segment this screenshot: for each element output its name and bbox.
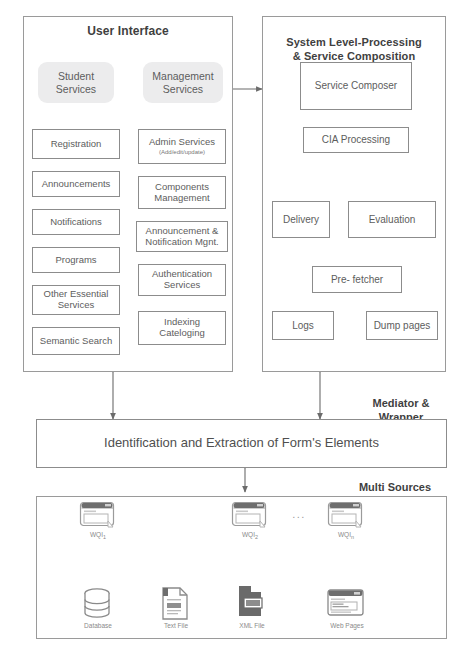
wqi-ellipsis: ...: [284, 508, 314, 520]
text-file-label: Text File: [148, 622, 204, 629]
window-icon-wqi-1: [79, 501, 117, 535]
database-label: Database: [69, 622, 127, 629]
box-cia-processing[interactable]: CIA Processing: [303, 127, 409, 153]
box-announcement-notification-mgnt[interactable]: Announcement & Notification Mgnt.: [136, 221, 228, 252]
box-components-management[interactable]: Components Management: [138, 176, 226, 209]
box-indexing-cateloging[interactable]: Indexing Cateloging: [138, 311, 226, 345]
window-icon-wqi-n: [327, 501, 365, 535]
service-group-management-label: Management Services: [152, 70, 213, 95]
box-dump-pages[interactable]: Dump pages: [366, 311, 438, 340]
database-icon: [79, 586, 117, 626]
box-admin-services[interactable]: Admin Services (Add/edit/update): [138, 129, 226, 164]
box-pre-fetcher[interactable]: Pre- fetcher: [312, 266, 402, 293]
box-delivery[interactable]: Delivery: [272, 201, 330, 238]
box-identification-extraction[interactable]: Identification and Extraction of Form's …: [36, 419, 447, 468]
box-semantic-search[interactable]: Semantic Search: [32, 327, 120, 355]
wqi-2-label: WQI2: [222, 531, 278, 540]
panel-user-interface-title: User Interface: [23, 24, 233, 39]
box-logs[interactable]: Logs: [272, 311, 334, 340]
box-announcements[interactable]: Announcements: [32, 171, 120, 197]
box-evaluation[interactable]: Evaluation: [348, 201, 436, 238]
box-notifications[interactable]: Notifications: [32, 209, 120, 235]
architecture-diagram: User Interface Student Services Manageme…: [0, 0, 453, 649]
xml-file-icon: [234, 583, 268, 625]
service-group-student-label: Student Services: [56, 70, 96, 95]
box-authentication-services[interactable]: Authentication Services: [138, 264, 226, 296]
panel-system-level-title: System Level-Processing & Service Compos…: [264, 22, 444, 63]
wqi-n-label: WQIn: [318, 531, 374, 540]
text-file-icon: [158, 586, 192, 626]
box-service-composer[interactable]: Service Composer: [300, 62, 412, 110]
service-group-student[interactable]: Student Services: [38, 62, 114, 103]
xml-file-label: XML File: [224, 622, 280, 629]
multi-sources-label: Multi Sources: [345, 481, 445, 495]
web-pages-label: Web Pages: [318, 622, 376, 629]
box-registration[interactable]: Registration: [32, 129, 120, 159]
service-group-management[interactable]: Management Services: [143, 62, 223, 103]
window-icon-wqi-2: [231, 501, 269, 535]
box-admin-services-sub: (Add/edit/update): [159, 149, 205, 156]
box-other-essential-services[interactable]: Other Essential Services: [32, 285, 120, 315]
box-programs[interactable]: Programs: [32, 247, 120, 273]
wqi-1-label: WQI1: [70, 531, 126, 540]
web-page-icon: [326, 588, 366, 624]
